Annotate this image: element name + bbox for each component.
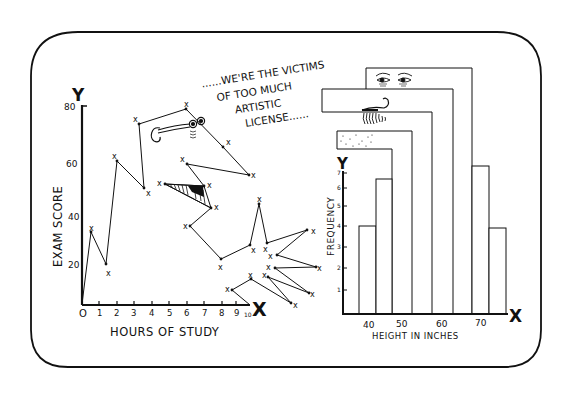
y-tick-80: 80 bbox=[64, 102, 76, 112]
y-tick-60: 60 bbox=[66, 159, 78, 169]
svg-text:x: x bbox=[317, 264, 322, 273]
x-tick-3: 3 bbox=[131, 308, 136, 318]
exaggerated-bars bbox=[322, 68, 472, 314]
svg-text:6: 6 bbox=[337, 184, 341, 191]
figure-canvas: ......WE'RE THE VICTIMS OF TOO MUCH ARTI… bbox=[0, 0, 572, 393]
caption: ......WE'RE THE VICTIMS OF TOO MUCH ARTI… bbox=[200, 58, 332, 135]
svg-text:x: x bbox=[184, 100, 189, 109]
bar-65-70 bbox=[472, 166, 489, 314]
svg-text:50: 50 bbox=[396, 319, 408, 329]
y-tick-20: 20 bbox=[68, 260, 80, 270]
x-tick-2: 2 bbox=[114, 308, 119, 318]
svg-text:5: 5 bbox=[337, 202, 341, 209]
svg-text:x: x bbox=[268, 252, 273, 261]
x-tick-8: 8 bbox=[219, 308, 224, 318]
x-tick-7: 7 bbox=[202, 308, 207, 318]
x-tick-9: 9 bbox=[234, 308, 239, 318]
dotted-beard bbox=[338, 132, 374, 148]
svg-text:x: x bbox=[112, 152, 117, 161]
svg-text:3: 3 bbox=[337, 243, 341, 250]
score-line bbox=[82, 109, 316, 305]
hist-x-tick-labels: 40 50 60 70 bbox=[363, 318, 487, 330]
svg-text:x: x bbox=[180, 155, 185, 164]
svg-text:4: 4 bbox=[337, 222, 341, 229]
svg-text:x: x bbox=[183, 222, 188, 231]
hist-x-axis-letter: X bbox=[509, 306, 522, 326]
svg-text:1: 1 bbox=[337, 286, 341, 293]
y-axis-label: EXAM SCORE bbox=[51, 186, 65, 267]
svg-text:x: x bbox=[146, 189, 151, 198]
cartoon-figure: ......WE'RE THE VICTIMS OF TOO MUCH ARTI… bbox=[0, 0, 572, 393]
svg-text:x: x bbox=[310, 290, 315, 299]
bar-45-50 bbox=[376, 179, 392, 314]
hist-x-axis-label: HEIGHT IN INCHES bbox=[372, 331, 459, 341]
svg-text:2: 2 bbox=[337, 264, 341, 271]
svg-text:x: x bbox=[225, 285, 230, 294]
x-axis-label: HOURS OF STUDY bbox=[110, 325, 220, 339]
x-tick-6: 6 bbox=[184, 308, 189, 318]
svg-text:x: x bbox=[89, 224, 94, 233]
x-tick-10: 10 bbox=[244, 311, 252, 318]
x-axis-letter: X bbox=[252, 298, 267, 320]
svg-text:x: x bbox=[207, 181, 212, 190]
data-dots bbox=[90, 108, 318, 305]
svg-text:x: x bbox=[133, 115, 138, 124]
svg-text:40: 40 bbox=[363, 320, 375, 330]
svg-text:x: x bbox=[293, 301, 298, 310]
svg-text:x: x bbox=[251, 171, 256, 180]
y-tick-labels: 80 60 40 20 bbox=[64, 102, 80, 270]
hist-y-tick-labels: 7 6 5 4 3 2 1 bbox=[337, 169, 341, 293]
svg-text:x: x bbox=[218, 263, 223, 272]
hist-y-axis-label: FREQUENCY bbox=[326, 197, 336, 256]
x-tick-0: O bbox=[79, 308, 87, 319]
svg-text:x: x bbox=[251, 246, 256, 255]
y-tick-40: 40 bbox=[68, 212, 80, 222]
bar-70-75 bbox=[489, 228, 506, 314]
svg-text:x: x bbox=[157, 179, 162, 188]
svg-text:x: x bbox=[262, 271, 267, 280]
svg-text:x: x bbox=[106, 269, 111, 278]
x-tick-labels: O 1 2 3 4 5 6 7 8 9 10 bbox=[79, 308, 252, 319]
svg-text:x: x bbox=[266, 263, 271, 272]
histogram-chart: Y X 7 6 5 4 3 2 1 40 50 60 70 bbox=[322, 68, 522, 341]
svg-text:70: 70 bbox=[475, 318, 487, 328]
svg-text:x: x bbox=[226, 138, 231, 147]
x-tick-5: 5 bbox=[167, 308, 172, 318]
svg-text:60: 60 bbox=[436, 319, 448, 329]
svg-text:7: 7 bbox=[337, 169, 341, 176]
svg-text:x: x bbox=[311, 227, 316, 236]
bar-40-45 bbox=[359, 226, 376, 314]
svg-text:x: x bbox=[214, 203, 219, 212]
svg-text:x: x bbox=[257, 195, 262, 204]
x-tick-1: 1 bbox=[97, 308, 102, 318]
x-tick-4: 4 bbox=[149, 308, 154, 318]
svg-text:x: x bbox=[248, 271, 253, 280]
